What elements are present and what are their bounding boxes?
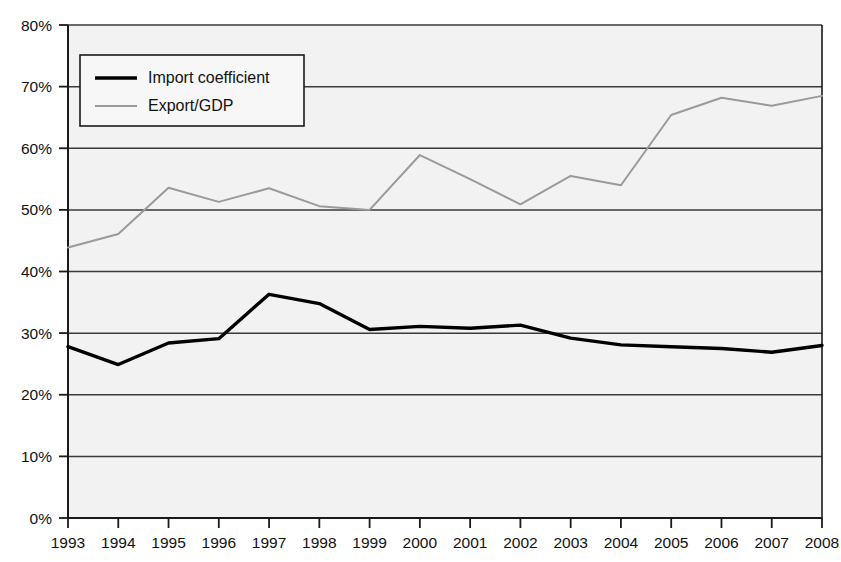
- y-tick-label-50: 50%: [21, 201, 52, 218]
- y-tick-label-30: 30%: [21, 325, 52, 342]
- y-tick-label-0: 0%: [30, 510, 53, 527]
- x-tick-label-2003: 2003: [553, 534, 587, 551]
- x-tick-label-1997: 1997: [252, 534, 286, 551]
- y-tick-label-70: 70%: [21, 78, 52, 95]
- x-tick-label-2001: 2001: [453, 534, 487, 551]
- legend-box: [80, 55, 304, 126]
- y-tick-label-10: 10%: [21, 448, 52, 465]
- x-tick-label-1996: 1996: [202, 534, 236, 551]
- legend-label-export-gdp: Export/GDP: [148, 97, 233, 114]
- x-axis-ticks: 1993199419951996199719981999200020012002…: [51, 518, 839, 551]
- line-chart: 0%10%20%30%40%50%60%70%80% 1993199419951…: [0, 0, 841, 562]
- x-tick-label-2004: 2004: [604, 534, 639, 551]
- y-tick-label-40: 40%: [21, 263, 52, 280]
- chart-legend: Import coefficient Export/GDP: [80, 55, 304, 126]
- y-tick-label-80: 80%: [21, 17, 52, 34]
- chart-figure: 0%10%20%30%40%50%60%70%80% 1993199419951…: [0, 0, 841, 562]
- x-tick-label-1998: 1998: [302, 534, 336, 551]
- y-tick-label-60: 60%: [21, 140, 52, 157]
- x-tick-label-1995: 1995: [151, 534, 185, 551]
- legend-label-import-coefficient: Import coefficient: [148, 69, 270, 86]
- x-tick-label-2006: 2006: [704, 534, 738, 551]
- x-tick-label-1993: 1993: [51, 534, 85, 551]
- x-tick-label-2008: 2008: [805, 534, 839, 551]
- x-tick-label-1994: 1994: [101, 534, 136, 551]
- x-tick-label-2005: 2005: [654, 534, 688, 551]
- y-axis-ticks: 0%10%20%30%40%50%60%70%80%: [21, 17, 68, 527]
- x-tick-label-2000: 2000: [403, 534, 438, 551]
- y-tick-label-20: 20%: [21, 386, 52, 403]
- x-tick-label-1999: 1999: [352, 534, 386, 551]
- x-tick-label-2007: 2007: [754, 534, 788, 551]
- x-tick-label-2002: 2002: [503, 534, 537, 551]
